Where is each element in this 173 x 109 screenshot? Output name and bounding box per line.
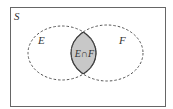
universe-label: S [14, 10, 20, 22]
intersection-label: E∩F [74, 48, 95, 59]
venn-diagram: S E F E∩F [0, 0, 173, 109]
set-f-label: F [118, 34, 126, 46]
set-e-label: E [37, 34, 45, 46]
